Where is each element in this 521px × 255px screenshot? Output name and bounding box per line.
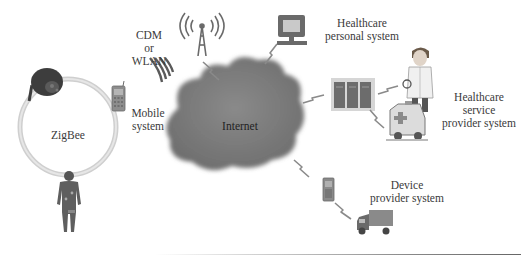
device-text: Device xyxy=(364,179,450,192)
wlan-text: WLAN xyxy=(124,55,174,68)
cdm-text: CDM xyxy=(124,29,174,42)
cell-tower-icon xyxy=(180,13,224,56)
healthcare-text: Healthcare xyxy=(314,17,410,30)
healthcare-personal-system-label: Healthcare personal system xyxy=(314,17,410,43)
personal-system-text: personal system xyxy=(314,30,410,43)
provider-system-text: provider system xyxy=(438,117,520,130)
human-body-icon xyxy=(57,171,81,232)
service-text: service xyxy=(438,104,520,117)
zigbee-label: ZigBee xyxy=(43,129,93,142)
network-diagram: CDM or WLAN Mobile system ZigBee Interne… xyxy=(0,0,521,255)
mobile-phone-icon xyxy=(112,81,125,111)
internet-cloud-icon xyxy=(166,57,304,170)
mobile-system-label: Mobile system xyxy=(126,107,170,133)
zigbee-ring xyxy=(20,79,116,175)
ambulance-icon xyxy=(386,101,428,141)
cdm-wlan-label: CDM or WLAN xyxy=(124,29,174,68)
healthcare-text-2: Healthcare xyxy=(438,91,520,104)
device-phone-icon xyxy=(323,178,334,201)
healthcare-service-provider-label: Healthcare service provider system xyxy=(438,91,520,130)
delivery-truck-icon xyxy=(357,210,393,235)
computer-monitor-icon xyxy=(277,15,307,45)
internet-label: Internet xyxy=(213,120,267,133)
provider-system-text-2: provider system xyxy=(364,192,450,205)
mobile-text: Mobile xyxy=(126,107,170,120)
system-text: system xyxy=(126,120,170,133)
device-provider-system-label: Device provider system xyxy=(364,179,450,205)
or-text: or xyxy=(124,42,174,55)
server-rack-icon xyxy=(331,78,375,111)
